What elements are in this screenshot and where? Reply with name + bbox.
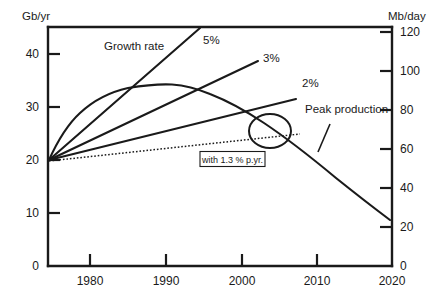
right-axis-ticks: [380, 32, 392, 227]
right-tick-label-40: 40: [400, 181, 414, 195]
x-axis-ticks: [90, 254, 317, 266]
crossing-highlight-ellipse: [249, 114, 291, 148]
right-tick-label-20: 20: [400, 220, 414, 234]
right-tick-label-0: 0: [400, 259, 407, 273]
right-axis-tick-labels: 120 100 80 60 40 20 0: [400, 25, 420, 273]
left-axis-ticks: [48, 54, 60, 213]
series-label-3pct: 3%: [263, 52, 280, 64]
x-tick-label-1990: 1990: [153, 274, 180, 288]
series-label-5pct: 5%: [203, 34, 220, 46]
x-tick-label-2010: 2010: [304, 274, 331, 288]
chart-page: Gb/yr Mb/day 40 30 20 10 0: [0, 0, 440, 306]
left-tick-label-40: 40: [26, 47, 40, 61]
dotted-note-callout: with 1.3 % p.yr.: [200, 152, 265, 167]
growth-line-3pct: [49, 61, 258, 160]
left-tick-label-30: 30: [26, 100, 40, 114]
right-axis-unit-label: Mb/day: [388, 10, 426, 22]
right-tick-label-80: 80: [400, 103, 414, 117]
oil-production-chart: Gb/yr Mb/day 40 30 20 10 0: [0, 0, 440, 306]
left-tick-label-10: 10: [26, 206, 40, 220]
x-axis-tick-labels: 1980 1990 2000 2010 2020: [77, 274, 406, 288]
left-tick-label-0: 0: [32, 259, 39, 273]
x-tick-label-1980: 1980: [77, 274, 104, 288]
right-tick-label-60: 60: [400, 142, 414, 156]
peak-production-leader-line: [318, 124, 330, 152]
left-axis-unit-label: Gb/yr: [22, 10, 50, 22]
growth-rate-label: Growth rate: [104, 40, 164, 52]
left-tick-label-20: 20: [26, 153, 40, 167]
peak-production-label: Peak production: [305, 103, 388, 115]
dotted-note-text: with 1.3 % p.yr.: [201, 155, 263, 165]
right-tick-label-100: 100: [400, 64, 420, 78]
x-tick-label-2000: 2000: [229, 274, 256, 288]
series-label-2pct: 2%: [302, 77, 319, 89]
x-tick-label-2020: 2020: [379, 274, 406, 288]
right-tick-label-120: 120: [400, 25, 420, 39]
left-axis-tick-labels: 40 30 20 10 0: [26, 47, 40, 273]
